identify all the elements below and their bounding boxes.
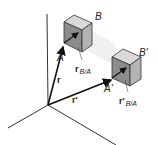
translation-diagram: B A B' A' r r' rB/A r'B/A: [0, 0, 158, 145]
y-axis: [48, 105, 116, 145]
label-B-prime: B': [139, 47, 149, 58]
label-A-prime: A': [103, 83, 114, 94]
coordinate-axes: [8, 14, 116, 145]
label-r-ba-prime: r'B/A: [119, 96, 137, 107]
label-r: r: [57, 75, 61, 85]
cube-final: [112, 49, 141, 86]
label-r-ba: rB/A: [75, 64, 91, 75]
label-A: A: [56, 52, 64, 63]
x-axis: [8, 105, 48, 128]
label-B: B: [95, 11, 102, 22]
z-axis: [47, 14, 48, 105]
label-r-prime: r': [72, 95, 78, 105]
